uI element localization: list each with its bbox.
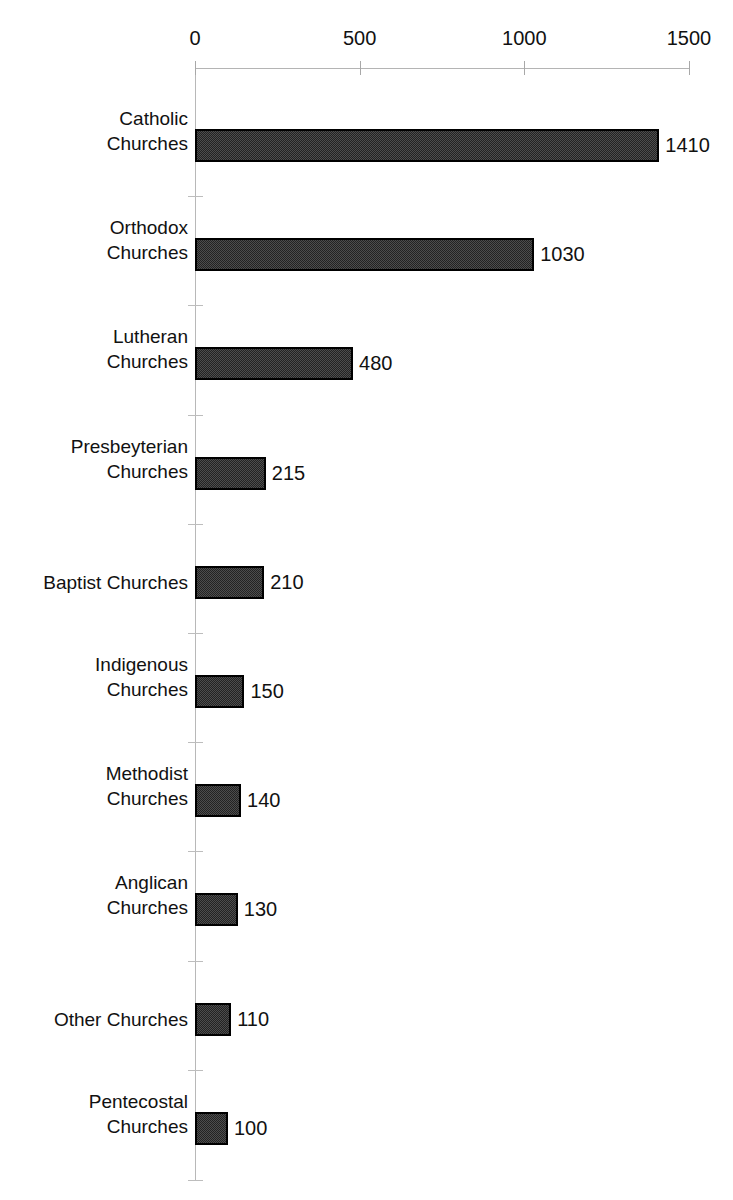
bar-value-label: 140 [247,784,280,817]
bar[interactable] [195,129,659,162]
category-axis-end-tick [188,1180,203,1181]
bar-row: Baptist Churches210 [0,566,733,599]
category-label: Catholic Churches [0,106,188,156]
category-axis-tick [188,961,203,962]
category-label: Baptist Churches [0,570,188,595]
bar-row: Other Churches110 [0,1003,733,1036]
category-axis-tick [188,196,203,197]
value-axis-tick-label: 1500 [644,27,733,49]
category-label: Indigenous Churches [0,652,188,702]
bar-row: Orthodox Churches1030 [0,238,733,271]
bar[interactable] [195,675,244,708]
value-axis-tick-label: 0 [150,27,240,49]
category-axis-tick [188,524,203,525]
value-axis-tick [195,61,196,75]
category-axis-tick [188,1070,203,1071]
bar[interactable] [195,893,238,926]
bar[interactable] [195,784,241,817]
bar-value-label: 210 [270,566,303,599]
category-axis-tick [188,742,203,743]
category-axis-tick [188,851,203,852]
value-axis-tick [689,61,690,75]
bar[interactable] [195,1112,228,1145]
category-label: Presbeyterian Churches [0,434,188,484]
value-axis-tick-label: 500 [315,27,405,49]
category-label: Methodist Churches [0,761,188,811]
category-axis-tick [188,633,203,634]
value-axis-tick [524,61,525,75]
category-label: Other Churches [0,1007,188,1032]
category-label: Lutheran Churches [0,324,188,374]
bar[interactable] [195,238,534,271]
category-label: Pentecostal Churches [0,1089,188,1139]
bar-row: Anglican Churches130 [0,893,733,926]
bar-value-label: 150 [250,675,283,708]
value-axis-line [195,68,689,69]
bar-value-label: 215 [272,457,305,490]
bar-row: Catholic Churches1410 [0,129,733,162]
bar-row: Presbeyterian Churches215 [0,457,733,490]
value-axis-tick-label: 1000 [479,27,569,49]
bar-row: Indigenous Churches150 [0,675,733,708]
category-label: Anglican Churches [0,870,188,920]
category-axis-tick [188,415,203,416]
bar-value-label: 110 [237,1003,269,1036]
bar-row: Methodist Churches140 [0,784,733,817]
bar-row: Pentecostal Churches100 [0,1112,733,1145]
bar-row: Lutheran Churches480 [0,347,733,380]
bar-chart-plot-area: 050010001500 Catholic Churches1410Orthod… [0,0,733,1200]
bar-value-label: 130 [244,893,277,926]
bar[interactable] [195,1003,231,1036]
bar[interactable] [195,457,266,490]
bar-value-label: 1030 [540,238,585,271]
bar[interactable] [195,566,264,599]
bar-value-label: 100 [234,1112,267,1145]
bar-value-label: 480 [359,347,392,380]
category-label: Orthodox Churches [0,215,188,265]
value-axis-tick [360,61,361,75]
bar-value-label: 1410 [665,129,710,162]
category-axis-tick [188,305,203,306]
bar[interactable] [195,347,353,380]
